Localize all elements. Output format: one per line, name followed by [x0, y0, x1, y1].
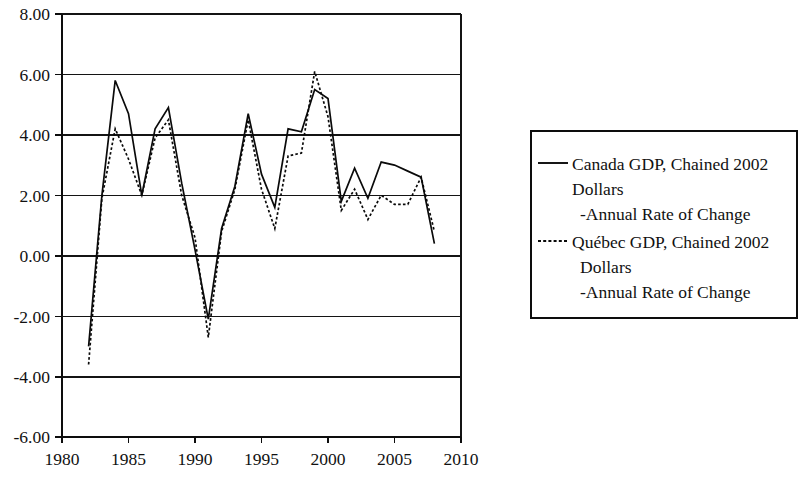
- series-line-quebec: [89, 71, 435, 364]
- x-tick-label: 1980: [45, 449, 80, 469]
- gridlines-horizontal: [62, 14, 461, 437]
- chart-canvas: 8.00 6.00 4.00 2.00 0.00 -2.00 -4.00 -6.…: [0, 0, 803, 478]
- y-tick-label: 4.00: [19, 125, 50, 145]
- x-axis: [62, 437, 461, 443]
- legend-entry-canada-line2: Dollars: [572, 179, 624, 199]
- x-tick-label: 2005: [377, 449, 412, 469]
- legend-entry-quebec-line3: -Annual Rate of Change: [580, 282, 751, 302]
- x-tick-label: 1985: [111, 449, 146, 469]
- legend-entry-quebec-line1: Québec GDP, Chained 2002: [572, 232, 769, 252]
- y-tick-label: 8.00: [19, 4, 50, 24]
- series-line-canada: [89, 80, 435, 346]
- legend-entry-canada-line3: -Annual Rate of Change: [580, 204, 751, 224]
- plot-frame: [62, 14, 461, 437]
- y-tick-label: 6.00: [19, 65, 50, 85]
- x-tick-label: 1990: [178, 449, 213, 469]
- x-tick-label: 2000: [311, 449, 346, 469]
- y-tick-label: 2.00: [19, 186, 50, 206]
- x-axis-tick-labels: 1980 1985 1990 1995 2000 2005 2010: [45, 449, 479, 469]
- y-tick-label: -6.00: [14, 427, 51, 447]
- x-tick-label: 1995: [244, 449, 279, 469]
- data-series-group: [89, 71, 435, 364]
- legend-entry-quebec-line2: Dollars: [580, 257, 632, 277]
- y-axis-tick-labels: 8.00 6.00 4.00 2.00 0.00 -2.00 -4.00 -6.…: [14, 4, 51, 447]
- y-axis: [55, 14, 62, 437]
- y-tick-label: -4.00: [14, 367, 51, 387]
- chart-legend: Canada GDP, Chained 2002 Dollars -Annual…: [531, 131, 797, 318]
- gdp-growth-line-chart: 8.00 6.00 4.00 2.00 0.00 -2.00 -4.00 -6.…: [0, 0, 803, 478]
- x-tick-label: 2010: [444, 449, 479, 469]
- y-tick-label: -2.00: [14, 307, 51, 327]
- y-tick-label: 0.00: [19, 246, 50, 266]
- legend-entry-canada-line1: Canada GDP, Chained 2002: [572, 154, 768, 174]
